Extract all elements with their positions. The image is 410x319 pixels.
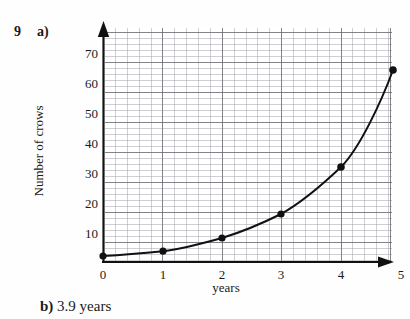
question-part-b-answer: 3.9 years xyxy=(57,298,111,314)
x-tick-4: 4 xyxy=(331,268,351,281)
worksheet-page: 9 a) 70 xyxy=(0,0,410,319)
y-tick-70: 70 xyxy=(68,47,98,60)
data-point-year-1 xyxy=(159,248,166,255)
x-tick-3: 3 xyxy=(271,268,291,281)
exponential-curve xyxy=(103,70,393,256)
x-tick-1: 1 xyxy=(153,268,173,281)
question-part-b-label: b) xyxy=(40,298,53,314)
chart-series-curve xyxy=(0,0,410,300)
data-point-year-5 xyxy=(389,66,397,74)
y-tick-60: 60 xyxy=(68,77,98,90)
crow-population-chart: 70 60 50 40 30 20 10 0 1 2 3 4 5 Number … xyxy=(0,0,410,300)
x-tick-5: 5 xyxy=(391,268,410,281)
y-tick-50: 50 xyxy=(68,107,98,120)
data-point-year-2 xyxy=(218,234,225,241)
y-tick-40: 40 xyxy=(68,137,98,150)
data-point-year-0 xyxy=(99,252,106,259)
x-axis-title: years xyxy=(196,281,256,295)
y-tick-20: 20 xyxy=(68,197,98,210)
data-point-year-3 xyxy=(277,210,284,217)
x-tick-0: 0 xyxy=(93,268,113,281)
y-tick-10: 10 xyxy=(68,227,98,240)
question-part-b: b) 3.9 years xyxy=(40,297,111,315)
y-axis-title: Number of crows xyxy=(32,91,46,211)
data-point-year-4 xyxy=(337,163,345,171)
y-tick-30: 30 xyxy=(68,167,98,180)
